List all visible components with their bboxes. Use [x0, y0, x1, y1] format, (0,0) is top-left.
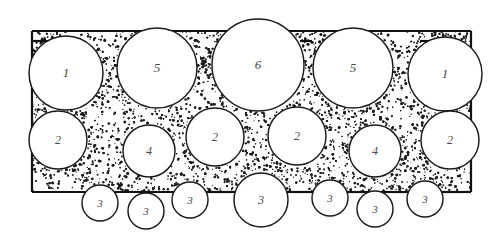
matrix-speck [287, 169, 289, 171]
particle-3[interactable]: 3 [312, 180, 348, 216]
particle-1[interactable]: 1 [408, 37, 482, 111]
matrix-speck [400, 110, 401, 111]
matrix-speck [124, 131, 126, 133]
matrix-speck [404, 157, 406, 159]
matrix-speck [106, 79, 108, 81]
matrix-speck [87, 157, 90, 160]
matrix-speck [445, 187, 446, 188]
matrix-speck [197, 176, 198, 177]
matrix-speck [89, 155, 91, 157]
matrix-speck [75, 178, 77, 180]
matrix-speck [469, 41, 470, 42]
matrix-speck [308, 66, 309, 67]
matrix-speck [393, 41, 394, 42]
matrix-speck [169, 119, 171, 121]
matrix-speck [458, 33, 461, 36]
particle-5[interactable]: 5 [117, 28, 197, 108]
matrix-speck [322, 40, 323, 41]
matrix-speck [322, 157, 323, 158]
particle-3[interactable]: 3 [82, 185, 118, 221]
matrix-speck [105, 178, 107, 180]
matrix-speck [242, 150, 244, 152]
matrix-speck [137, 183, 138, 184]
matrix-speck [348, 159, 349, 160]
matrix-speck [309, 91, 310, 92]
matrix-speck [93, 40, 94, 41]
matrix-speck [435, 173, 437, 175]
particle-3[interactable]: 3 [234, 173, 288, 227]
matrix-speck [343, 149, 345, 151]
matrix-speck [56, 33, 58, 35]
matrix-speck [409, 105, 411, 107]
matrix-speck [441, 180, 442, 181]
particle-2[interactable]: 2 [186, 108, 244, 166]
matrix-speck [212, 185, 213, 186]
matrix-speck [94, 151, 96, 153]
matrix-speck [414, 181, 415, 182]
matrix-speck [322, 172, 324, 174]
matrix-speck [174, 177, 176, 179]
matrix-speck [246, 126, 248, 128]
particle-4[interactable]: 4 [123, 125, 175, 177]
matrix-speck [434, 32, 436, 34]
matrix-speck [360, 110, 362, 112]
matrix-speck [415, 178, 416, 179]
matrix-speck [420, 168, 421, 169]
matrix-speck [33, 49, 34, 50]
matrix-speck [50, 33, 51, 34]
matrix-speck [187, 117, 189, 119]
particle-2[interactable]: 2 [29, 111, 87, 169]
matrix-speck [177, 124, 179, 126]
matrix-speck [120, 142, 121, 143]
matrix-speck [109, 72, 111, 74]
matrix-speck [421, 122, 423, 124]
matrix-speck [58, 180, 60, 182]
matrix-speck [296, 170, 298, 172]
particle-3[interactable]: 3 [357, 191, 393, 227]
matrix-speck [414, 176, 416, 178]
matrix-speck [103, 85, 105, 87]
matrix-speck [143, 119, 145, 121]
matrix-speck [347, 136, 348, 137]
particle-2[interactable]: 2 [421, 111, 479, 169]
matrix-speck [410, 41, 411, 42]
matrix-speck [236, 183, 237, 184]
matrix-speck [257, 114, 259, 116]
matrix-speck [271, 162, 272, 163]
particle-2[interactable]: 2 [268, 107, 326, 165]
matrix-speck [86, 114, 87, 115]
matrix-speck [405, 96, 407, 98]
matrix-speck [366, 110, 368, 112]
matrix-speck [165, 116, 167, 118]
matrix-speck [186, 149, 187, 150]
particle-4[interactable]: 4 [349, 125, 401, 177]
matrix-speck [313, 53, 315, 55]
matrix-speck [112, 136, 113, 137]
matrix-speck [362, 185, 364, 187]
matrix-speck [320, 172, 322, 174]
particle-6[interactable]: 6 [212, 19, 304, 111]
matrix-speck [58, 170, 60, 172]
matrix-speck [88, 136, 90, 138]
matrix-speck [398, 188, 401, 191]
matrix-speck [122, 94, 124, 96]
matrix-speck [216, 188, 218, 190]
particle-3[interactable]: 3 [128, 193, 164, 229]
matrix-speck [128, 98, 130, 100]
matrix-speck [104, 39, 106, 41]
particle-1[interactable]: 1 [29, 36, 103, 110]
matrix-speck [315, 184, 316, 185]
matrix-speck [199, 107, 201, 109]
matrix-speck [236, 179, 238, 181]
particle-3[interactable]: 3 [172, 182, 208, 218]
matrix-speck [214, 176, 216, 178]
matrix-speck [49, 175, 51, 177]
matrix-speck [333, 147, 334, 148]
particle-3[interactable]: 3 [407, 181, 443, 217]
matrix-speck [394, 84, 396, 86]
matrix-speck [447, 170, 448, 171]
matrix-speck [442, 184, 444, 186]
matrix-speck [36, 97, 37, 98]
particle-5[interactable]: 5 [313, 28, 393, 108]
matrix-speck [463, 171, 464, 172]
